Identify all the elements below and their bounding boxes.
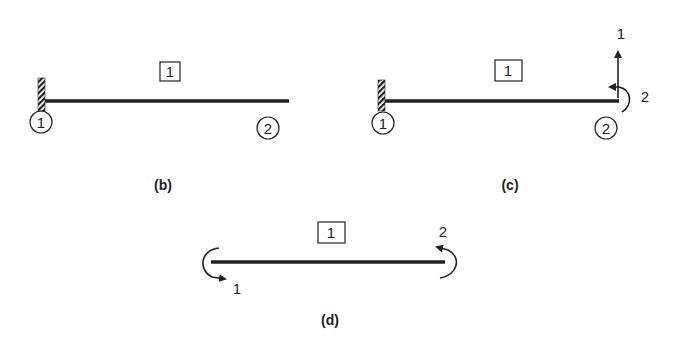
element-label: 1 (327, 224, 335, 241)
dof-label-1: 1 (617, 25, 625, 42)
dof-label-1: 1 (233, 280, 241, 297)
node-label-1: 1 (37, 114, 45, 131)
fixed-support-hatch (378, 80, 385, 111)
node-label-2: 2 (264, 120, 272, 137)
panel-caption: (d) (321, 312, 339, 328)
panel-caption: (b) (154, 177, 172, 193)
node-label-1: 1 (379, 115, 387, 132)
panel-b: 1 1 2 (b) (30, 62, 289, 193)
diagram-canvas: 1 1 2 (b) 1 1 2 1 2 (c) 1 1 2 (d) (0, 0, 674, 341)
dof-label-2: 2 (439, 223, 447, 240)
dof-label-2: 2 (641, 88, 649, 105)
element-label: 1 (504, 62, 512, 79)
panel-caption: (c) (501, 177, 518, 193)
panel-c: 1 1 2 1 2 (c) (372, 25, 649, 193)
node-label-2: 2 (602, 120, 610, 137)
panel-d: 1 1 2 (d) (203, 222, 457, 328)
element-label: 1 (166, 63, 174, 80)
fixed-support-hatch (38, 78, 45, 111)
